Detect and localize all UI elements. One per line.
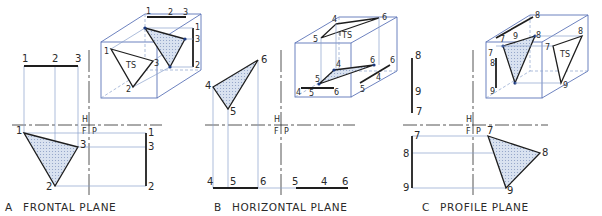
svg-text:5: 5 [292,176,298,187]
svg-text:7: 7 [487,125,493,136]
svg-text:2: 2 [126,85,131,94]
svg-text:4: 4 [207,176,213,187]
panel-title: HORIZONTAL PLANE [232,201,348,213]
svg-text:1: 1 [22,53,28,64]
svg-text:F: F [466,127,471,136]
svg-text:7: 7 [414,130,420,141]
svg-text:5: 5 [315,75,320,84]
fold-label-h: H [82,115,88,124]
svg-text:P: P [284,127,289,136]
svg-text:1: 1 [146,7,151,16]
pictorial-true-shape [553,36,582,83]
svg-text:1: 1 [16,125,22,136]
pictorial-box-profile: 8 7 9 8 7 8 9 7 8 9 TS [486,11,588,98]
fold-label-p: P [92,127,97,136]
svg-text:9: 9 [563,81,568,90]
svg-text:9: 9 [507,185,513,196]
svg-text:9: 9 [403,182,409,193]
pictorial-plane-7-8-9 [503,36,535,83]
fold-label-f: F [82,127,87,136]
svg-text:5: 5 [230,176,236,187]
svg-text:9: 9 [513,32,518,41]
svg-text:9: 9 [490,87,495,96]
svg-text:4: 4 [336,60,341,69]
svg-text:8: 8 [542,147,548,158]
true-shape-label: TS [559,50,570,59]
svg-text:3: 3 [75,53,81,64]
svg-text:4: 4 [332,15,337,24]
svg-text:2: 2 [52,53,58,64]
svg-text:6: 6 [370,56,375,65]
svg-text:1: 1 [104,47,109,56]
panel-title: FRONTAL PLANE [23,201,116,213]
svg-text:6: 6 [342,176,348,187]
svg-text:5: 5 [309,89,314,98]
svg-text:4: 4 [205,80,211,91]
svg-text:5: 5 [313,35,318,44]
svg-text:4: 4 [376,73,381,82]
svg-text:7: 7 [416,106,422,117]
pictorial-box-frontal: 1 2 3 1 3 2 1 3 2 TS [101,7,201,98]
svg-text:P: P [476,127,481,136]
svg-text:6: 6 [261,54,267,65]
svg-text:4: 4 [321,176,327,187]
svg-text:8: 8 [578,27,583,36]
svg-text:6: 6 [260,176,266,187]
svg-text:1: 1 [148,127,154,138]
svg-text:1: 1 [195,23,200,32]
panel-letter: B [214,201,222,213]
svg-text:H: H [466,115,472,124]
svg-text:6: 6 [382,13,387,22]
front-view-true-shape [24,133,78,186]
svg-text:9: 9 [415,86,421,97]
side-view-true-shape [488,136,540,188]
svg-text:8: 8 [536,31,541,40]
panel-profile-plane: H F P 8 9 7 7 8 9 7 8 9 [403,11,588,213]
svg-text:5: 5 [360,85,365,94]
svg-text:2: 2 [168,8,173,17]
true-shape-label: TS [341,31,352,40]
panel-letter: A [5,201,13,213]
top-view-true-shape [213,60,258,109]
orthographic-planes-diagram: H F P 1 2 3 1 2 3 1 3 2 [0,0,602,216]
svg-text:3: 3 [195,35,200,44]
svg-text:3: 3 [148,141,154,152]
svg-text:H: H [274,115,280,124]
panel-title: PROFILE PLANE [440,201,529,213]
svg-text:7: 7 [500,35,505,44]
svg-text:8: 8 [535,11,540,20]
svg-text:8: 8 [415,50,421,61]
panel-letter: C [422,201,430,213]
svg-text:3: 3 [154,59,159,68]
svg-text:2: 2 [46,181,52,192]
svg-text:2: 2 [148,181,154,192]
pictorial-box-horizontal: 4 6 5 TS 4 6 6 5 4 5 6 5 4 [295,13,397,98]
svg-text:8: 8 [490,59,495,68]
svg-text:8: 8 [403,148,409,159]
svg-text:7: 7 [545,43,550,52]
svg-text:3: 3 [80,139,86,150]
svg-text:4: 4 [296,88,301,97]
svg-text:6: 6 [334,88,339,97]
panel-horizontal-plane: H F P 4 5 6 4 5 6 5 4 6 [205,13,397,213]
svg-text:7: 7 [488,49,493,58]
true-shape-label: TS [125,61,136,70]
svg-text:F: F [274,127,279,136]
svg-text:2: 2 [195,61,200,70]
pictorial-plane-4-5-6 [319,65,374,84]
svg-text:5: 5 [230,106,236,117]
panel-frontal-plane: H F P 1 2 3 1 2 3 1 3 2 [5,7,201,213]
svg-text:6: 6 [390,56,395,65]
svg-text:3: 3 [183,8,188,17]
